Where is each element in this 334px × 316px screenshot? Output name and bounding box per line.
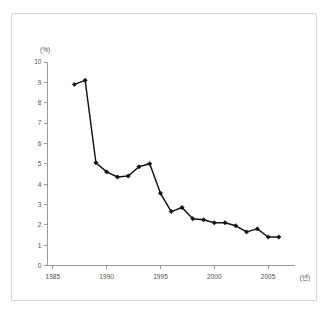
data-point-marker [72,82,76,86]
x-tick-label: 1995 [153,273,168,280]
data-point-marker [201,218,205,222]
x-axis-unit-label: (년) [300,273,310,282]
x-tick-label: 1990 [99,273,114,280]
data-point-marker [83,78,87,82]
y-tick-label: 2 [38,221,42,228]
data-series-line [74,80,278,237]
y-axis-ticks: 012345678910 [34,58,47,269]
y-tick-label: 10 [34,58,42,65]
y-tick-label: 5 [38,160,42,167]
y-tick-label: 7 [38,119,42,126]
data-point-marker [223,221,227,225]
data-point-marker [277,235,281,239]
data-point-marker [148,162,152,166]
figure-container: 012345678910 19851990199520002005 (%) (년… [0,0,334,316]
data-series-markers [72,78,281,239]
x-axis-ticks: 19851990199520002005 [46,266,276,280]
y-tick-label: 6 [38,140,42,147]
line-chart: 012345678910 19851990199520002005 (%) (년… [0,0,334,316]
x-tick-label: 2000 [207,273,222,280]
chart-axes [48,62,296,266]
data-point-marker [212,221,216,225]
y-tick-label: 0 [38,262,42,269]
y-axis-unit-label: (%) [40,46,50,54]
y-tick-label: 3 [38,201,42,208]
y-tick-label: 8 [38,99,42,106]
x-tick-label: 2005 [261,273,276,280]
x-tick-label: 1985 [46,273,61,280]
y-tick-label: 9 [38,79,42,86]
y-tick-label: 4 [38,181,42,188]
data-point-marker [115,175,119,179]
y-tick-label: 1 [38,242,42,249]
